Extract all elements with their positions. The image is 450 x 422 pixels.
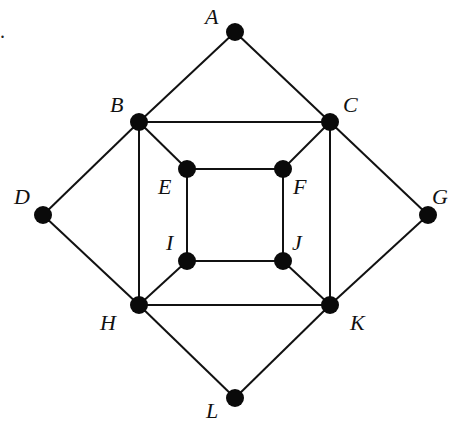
edge-c-g: [330, 122, 428, 215]
node-c: [321, 113, 339, 131]
node-label-j: J: [292, 232, 302, 254]
edge-h-i: [139, 261, 187, 305]
node-e: [178, 160, 196, 178]
node-label-g: G: [432, 186, 448, 208]
edge-k-l: [235, 305, 330, 398]
node-l: [226, 389, 244, 407]
node-label-b: B: [110, 94, 123, 116]
node-b: [130, 113, 148, 131]
graph-nodes: [34, 23, 437, 407]
edge-g-k: [330, 215, 428, 305]
edge-c-f: [283, 122, 330, 169]
node-i: [178, 252, 196, 270]
edge-b-e: [139, 122, 187, 169]
node-f: [274, 160, 292, 178]
edge-a-c: [235, 32, 330, 122]
node-a: [226, 23, 244, 41]
edge-a-b: [139, 32, 235, 122]
node-j: [274, 252, 292, 270]
node-label-c: C: [343, 94, 358, 116]
node-label-e: E: [158, 176, 171, 198]
edge-h-l: [139, 305, 235, 398]
node-label-k: K: [350, 312, 365, 334]
node-label-a: A: [205, 6, 218, 28]
node-label-l: L: [206, 400, 218, 422]
node-label-f: F: [293, 176, 306, 198]
node-h: [130, 296, 148, 314]
edge-d-h: [43, 215, 139, 305]
node-label-h: H: [100, 312, 116, 334]
node-k: [321, 296, 339, 314]
graph-edges: [43, 32, 428, 398]
node-d: [34, 206, 52, 224]
node-label-i: I: [166, 232, 173, 254]
edge-b-d: [43, 122, 139, 215]
node-label-d: D: [14, 186, 30, 208]
edge-k-j: [283, 261, 330, 305]
